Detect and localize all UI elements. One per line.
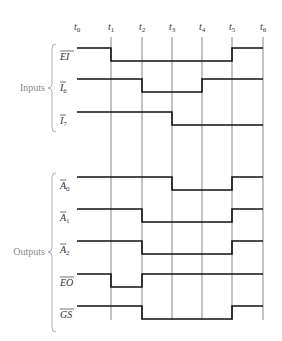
signal-labels: EII6I7A0A1A2EOGS [59, 51, 74, 320]
waveform-a1 [77, 209, 263, 222]
waveform-gs [77, 306, 263, 319]
inputs-group-label: Inputs [20, 82, 45, 93]
time-label-t5: t5 [229, 21, 236, 34]
waveform-i7 [77, 112, 263, 125]
signal-label-a0: A0 [59, 180, 70, 193]
signal-label-eo: EO [59, 277, 73, 288]
outputs-brace [48, 173, 56, 332]
waveform-ei [77, 48, 263, 61]
waveform-a2 [77, 241, 263, 254]
signal-label-a2: A2 [59, 244, 70, 257]
time-label-t4: t4 [199, 21, 206, 34]
time-label-t2: t2 [139, 21, 146, 34]
waveform-eo [77, 274, 263, 287]
inputs-brace [48, 44, 56, 132]
signal-label-i6: I6 [59, 82, 67, 95]
signal-label-ei: EI [59, 51, 70, 62]
signal-label-a1: A1 [59, 212, 70, 225]
waveform-i6 [77, 79, 263, 92]
signal-label-i7: I7 [59, 115, 67, 128]
outputs-group-label: Outputs [13, 246, 45, 257]
time-labels: t0t1t2t3t4t5t6 [74, 21, 267, 34]
waveform-a0 [77, 177, 263, 190]
time-label-t6: t6 [260, 21, 267, 34]
time-label-t1: t1 [108, 21, 115, 34]
signal-label-gs: GS [60, 309, 72, 320]
waveforms [77, 48, 263, 319]
timing-diagram: t0t1t2t3t4t5t6 EII6I7A0A1A2EOGS Inputs O… [0, 0, 282, 341]
time-label-t3: t3 [169, 21, 176, 34]
time-label-t0: t0 [74, 21, 81, 34]
